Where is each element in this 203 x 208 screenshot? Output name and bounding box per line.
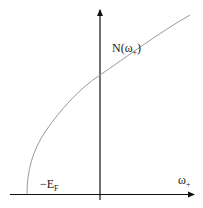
fermi-energy-label: −EF xyxy=(40,178,59,190)
diagram-canvas xyxy=(0,0,203,208)
x-axis-label: ω+ xyxy=(178,174,190,186)
y-axis-label: N(ω+) xyxy=(112,42,141,54)
dos-curve xyxy=(27,15,190,194)
